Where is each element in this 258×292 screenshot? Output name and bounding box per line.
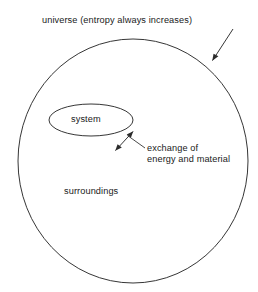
universe-leader-arrow [213, 29, 234, 61]
exchange-label-line-2: energy and material [147, 154, 230, 165]
exchange-label-line-1: exchange of [147, 143, 230, 154]
surroundings-label: surroundings [64, 186, 118, 197]
exchange-label-leader-line [128, 136, 146, 149]
universe-label: universe (entropy always increases) [42, 15, 192, 26]
diagram-canvas: universe (entropy always increases) syst… [0, 0, 258, 292]
exchange-double-arrow [116, 132, 134, 151]
system-label: system [71, 114, 101, 125]
exchange-label: exchange of energy and material [147, 143, 230, 165]
